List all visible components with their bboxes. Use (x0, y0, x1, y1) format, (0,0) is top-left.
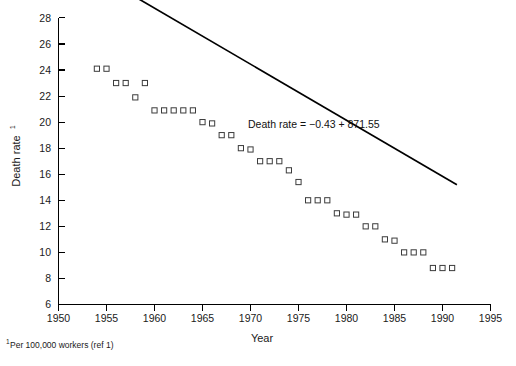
data-point (210, 121, 215, 126)
y-tick-label: 28 (39, 12, 51, 24)
scatter-plot: 6 8 10 12 14 16 18 20 22 24 26 28 (0, 0, 516, 366)
x-axis-title: Year (251, 332, 274, 344)
data-point (296, 179, 301, 184)
data-point (382, 237, 387, 242)
x-tick-label: 1975 (287, 312, 311, 324)
data-point (277, 159, 282, 164)
data-point (104, 66, 109, 71)
data-point (114, 80, 119, 85)
x-tick-label: 1990 (431, 312, 455, 324)
data-point (152, 108, 157, 113)
data-point (306, 198, 311, 203)
data-point (334, 211, 339, 216)
data-point (219, 133, 224, 138)
y-tick-label: 26 (39, 38, 51, 50)
data-point (430, 265, 435, 270)
y-tick-label: 10 (39, 246, 51, 258)
data-point (421, 250, 426, 255)
data-point (190, 108, 195, 113)
data-point (200, 120, 205, 125)
data-point (373, 224, 378, 229)
y-axis-title-superscript: 1 (9, 125, 16, 129)
data-point (325, 198, 330, 203)
figure-container: 6 8 10 12 14 16 18 20 22 24 26 28 (0, 0, 516, 366)
x-tick-label: 1980 (335, 312, 359, 324)
y-axis-tick-labels: 6 8 10 12 14 16 18 20 22 24 26 28 (39, 12, 51, 311)
data-point (402, 250, 407, 255)
data-point-group (94, 66, 454, 271)
y-tick-label: 6 (45, 298, 51, 310)
footnote: 1 Per 100,000 workers (ref 1) (6, 338, 114, 350)
y-tick-label: 18 (39, 142, 51, 154)
data-point (171, 108, 176, 113)
data-point (248, 147, 253, 152)
x-tick-label: 1970 (239, 312, 263, 324)
x-tick-label: 1960 (143, 312, 167, 324)
regression-line (97, 0, 457, 185)
data-point (392, 238, 397, 243)
y-tick-label: 24 (39, 64, 51, 76)
data-point (344, 212, 349, 217)
data-point (411, 250, 416, 255)
x-axis-tick-labels: 1950 1955 1960 1965 1970 1975 1980 1985 … (47, 312, 503, 324)
data-point (267, 159, 272, 164)
data-point (142, 80, 147, 85)
data-point (354, 212, 359, 217)
y-axis-title-text: Death rate (10, 135, 22, 186)
y-axis-title: Death rate 1 (9, 125, 22, 187)
y-tick-label: 8 (45, 272, 51, 284)
data-point (258, 159, 263, 164)
axis-lines (59, 18, 491, 305)
data-point (440, 265, 445, 270)
regression-equation-label: Death rate = −0.43 + 871.55 (248, 118, 380, 130)
data-point (363, 224, 368, 229)
data-point (229, 133, 234, 138)
data-point (286, 168, 291, 173)
y-tick-label: 16 (39, 168, 51, 180)
footnote-text: Per 100,000 workers (ref 1) (10, 340, 114, 350)
y-axis-ticks (59, 18, 65, 305)
data-point (123, 80, 128, 85)
y-tick-label: 20 (39, 116, 51, 128)
x-tick-label: 1985 (383, 312, 407, 324)
data-point (315, 198, 320, 203)
data-point (133, 95, 138, 100)
data-point (181, 108, 186, 113)
data-point (238, 146, 243, 151)
y-tick-label: 12 (39, 220, 51, 232)
y-tick-label: 14 (39, 194, 51, 206)
x-tick-label: 1965 (191, 312, 215, 324)
data-point (94, 66, 99, 71)
x-axis-ticks (59, 305, 491, 311)
data-point (450, 265, 455, 270)
x-tick-label: 1955 (95, 312, 119, 324)
y-tick-label: 22 (39, 90, 51, 102)
data-point (162, 108, 167, 113)
x-tick-label: 1950 (47, 312, 71, 324)
x-tick-label: 1995 (479, 312, 503, 324)
